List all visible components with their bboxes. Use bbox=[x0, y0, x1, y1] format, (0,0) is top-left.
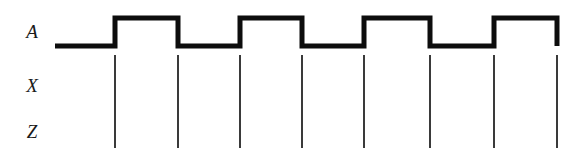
signal-label-z: Z bbox=[27, 121, 38, 142]
timing-diagram-canvas: A X Z bbox=[0, 0, 584, 158]
timing-diagram-figure: A X Z bbox=[0, 0, 584, 158]
signal-label-x: X bbox=[25, 75, 39, 96]
signal-label-a: A bbox=[24, 21, 38, 42]
signal-labels: A X Z bbox=[24, 21, 39, 142]
